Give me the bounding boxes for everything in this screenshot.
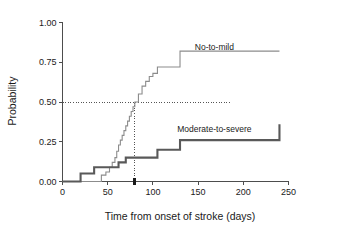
survival-step-curves — [63, 51, 280, 181]
x-tick-label-1: 50 — [103, 187, 113, 197]
y-axis-tick-labels: 0.000.250.500.751.00 — [39, 18, 57, 187]
series-inline-labels: No-to-mildModerate-to-severe — [177, 42, 251, 134]
median-axis-marker — [133, 178, 136, 184]
y-axis-title: Probability — [6, 76, 18, 126]
x-tick-label-5: 250 — [281, 187, 296, 197]
x-axis-title: Time from onset of stroke (days) — [105, 210, 256, 222]
x-axis-tick-labels: 050100150200250 — [60, 187, 296, 197]
series-curve-no-to-mild — [63, 51, 280, 181]
x-tick-label-4: 200 — [236, 187, 251, 197]
y-tick-label-1: 0.25 — [39, 137, 57, 147]
y-tick-label-2: 0.50 — [39, 97, 57, 107]
x-tick-label-2: 100 — [145, 187, 160, 197]
series-label-moderate-to-severe: Moderate-to-severe — [177, 124, 251, 134]
step-chart-plot: 0.000.250.500.751.00 050100150200250 No-… — [0, 0, 338, 227]
y-tick-label-3: 0.75 — [39, 57, 57, 67]
median-reference-lines — [63, 102, 230, 185]
y-axis-ticks — [59, 23, 63, 182]
y-tick-label-0: 0.00 — [39, 177, 57, 187]
x-tick-label-0: 0 — [60, 187, 65, 197]
series-label-no-to-mild: No-to-mild — [195, 42, 234, 52]
chart-figure: 0.000.250.500.751.00 050100150200250 No-… — [0, 0, 338, 227]
y-tick-label-4: 1.00 — [39, 18, 57, 28]
x-tick-label-3: 150 — [191, 187, 206, 197]
